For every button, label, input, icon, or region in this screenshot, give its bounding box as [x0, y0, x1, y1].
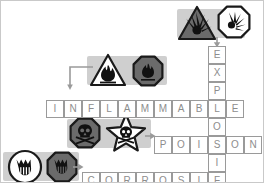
crossword-cell-inflammable-3[interactable]: L	[100, 100, 118, 118]
crossword-cell-explosif-6[interactable]: I	[208, 154, 226, 172]
crossword-cell-poison-1[interactable]: O	[172, 136, 190, 154]
crossword-cell-poison-2[interactable]: I	[190, 136, 208, 154]
crossword-cell-inflammable-8[interactable]: B	[190, 100, 208, 118]
crossword-cell-explosif-5[interactable]: S	[208, 136, 226, 154]
poison-star-pictogram[interactable]	[105, 113, 147, 153]
crossword-cell-explosif-2[interactable]: P	[208, 82, 226, 100]
crossword-cell-poison-5[interactable]: N	[244, 136, 262, 154]
explosive-triangle-pictogram[interactable]	[177, 5, 217, 43]
crossword-cell-explosif-4[interactable]: O	[208, 118, 226, 136]
corrosive-circle-pictogram[interactable]	[7, 149, 43, 183]
arrow-flammable-to-grid	[67, 65, 95, 93]
poison-octagon-pictogram[interactable]	[69, 117, 101, 149]
crossword-cell-inflammable-1[interactable]: N	[64, 100, 82, 118]
flammable-octagon-pictogram[interactable]	[132, 55, 164, 87]
crossword-cell-poison-4[interactable]: O	[226, 136, 244, 154]
crossword-cell-explosif-1[interactable]: X	[208, 64, 226, 82]
crossword-cell-corrosif-4[interactable]: O	[154, 172, 172, 183]
crossword-cell-corrosif-6[interactable]: I	[190, 172, 208, 183]
crossword-cell-poison-0[interactable]: P	[154, 136, 172, 154]
crossword-cell-inflammable-2[interactable]: F	[82, 100, 100, 118]
crossword-cell-inflammable-7[interactable]: A	[172, 100, 190, 118]
crossword-cell-corrosif-0[interactable]: C	[82, 172, 100, 183]
crossword-cell-inflammable-6[interactable]: M	[154, 100, 172, 118]
crossword-cell-corrosif-1[interactable]: O	[100, 172, 118, 183]
crossword-cell-explosif-7[interactable]: F	[208, 172, 226, 183]
crossword-cell-explosif-3[interactable]: L	[208, 100, 226, 118]
crossword-cell-inflammable-4[interactable]: A	[118, 100, 136, 118]
crossword-cell-corrosif-5[interactable]: S	[172, 172, 190, 183]
worksheet-canvas: E X P L O S I F I N F L A M M A B E P O …	[0, 0, 264, 183]
crossword-cell-explosif-0[interactable]: E	[208, 46, 226, 64]
crossword-cell-corrosif-3[interactable]: R	[136, 172, 154, 183]
crossword-cell-inflammable-0[interactable]: I	[46, 100, 64, 118]
crossword-cell-corrosif-2[interactable]: R	[118, 172, 136, 183]
crossword-cell-inflammable-10[interactable]: E	[226, 100, 244, 118]
explosive-octagon-pictogram[interactable]	[217, 5, 251, 39]
crossword-cell-inflammable-5[interactable]: M	[136, 100, 154, 118]
